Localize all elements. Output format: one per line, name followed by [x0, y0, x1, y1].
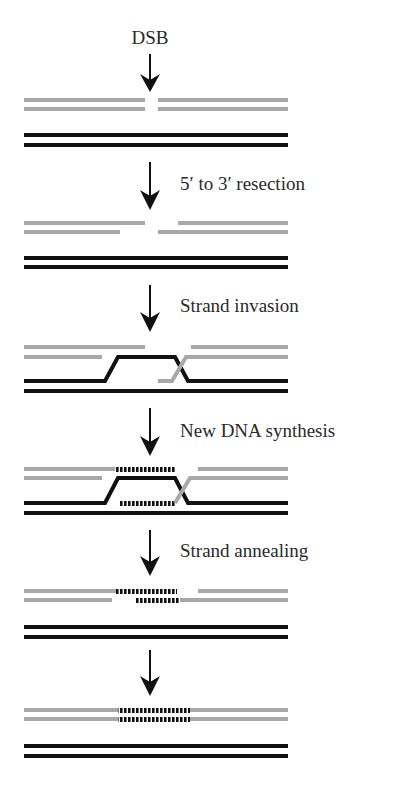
step-label-dsb: DSB	[132, 27, 169, 48]
arrow-icon	[140, 650, 160, 696]
broken-duplex	[24, 100, 288, 109]
step-dsb: DSB	[24, 27, 288, 145]
step-label-resection: 5′ to 3′ resection	[180, 173, 305, 194]
arrow-icon	[140, 162, 160, 210]
arrow-icon	[140, 530, 160, 576]
arrow-icon	[140, 285, 160, 332]
step-label-invasion: Strand invasion	[180, 295, 299, 316]
resected-duplex	[24, 223, 288, 232]
template-duplex	[24, 357, 288, 391]
template-duplex	[24, 627, 288, 637]
arrow-icon	[140, 54, 160, 92]
new-dna-top	[118, 708, 190, 713]
new-dna-bottom	[135, 598, 180, 603]
step-invasion: Strand invasion	[24, 285, 299, 391]
new-dna-bottom	[118, 717, 190, 722]
step-final	[24, 650, 288, 756]
new-dna-top	[116, 589, 177, 594]
new-dna-bottom	[120, 501, 176, 506]
template-duplex	[24, 258, 288, 267]
template-duplex	[24, 135, 288, 145]
step-synthesis: New DNA synthesis	[24, 408, 335, 513]
new-dna-top	[115, 467, 176, 472]
step-resection: 5′ to 3′ resection	[24, 162, 305, 267]
step-annealing: Strand annealing	[24, 530, 309, 637]
template-duplex	[24, 478, 288, 513]
step-label-synthesis: New DNA synthesis	[180, 420, 335, 441]
arrow-icon	[140, 408, 160, 456]
invading-strand	[175, 478, 288, 503]
template-duplex	[24, 746, 288, 756]
step-label-annealing: Strand annealing	[180, 540, 309, 561]
sdsa-diagram: DSB 5′ to 3′ resection	[0, 0, 393, 787]
